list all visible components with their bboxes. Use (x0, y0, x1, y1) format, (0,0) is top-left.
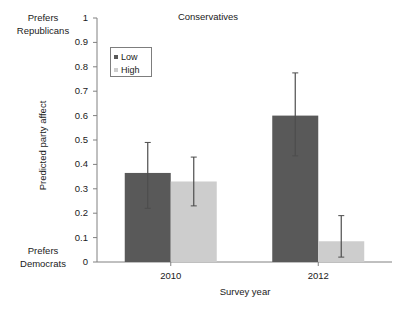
y-tick-label: 0.7 (62, 85, 88, 96)
x-tick-label: 2010 (131, 270, 211, 281)
legend-item-high: High (114, 63, 140, 76)
y-tick-label: 0.5 (62, 134, 88, 145)
legend-label-high: High (121, 65, 140, 75)
legend-item-low: Low (114, 50, 138, 63)
y-tick-label: 0.1 (62, 232, 88, 243)
chart-figure: Conservatives Prefers Republicans Prefer… (0, 0, 416, 311)
y-tick-label: 0.2 (62, 207, 88, 218)
chart-legend: Low High (110, 47, 152, 77)
y-tick-label: 1 (62, 12, 88, 23)
x-tick-label: 2012 (278, 270, 358, 281)
legend-swatch-low (114, 55, 118, 59)
y-tick-label: 0.8 (62, 61, 88, 72)
legend-label-low: Low (121, 52, 138, 62)
y-tick-label: 0.4 (62, 158, 88, 169)
legend-swatch-high (114, 68, 118, 72)
bars (125, 116, 365, 262)
y-tick-label: 0.6 (62, 110, 88, 121)
y-tick-label: 0 (62, 256, 88, 267)
y-tick-label: 0.3 (62, 183, 88, 194)
y-tick-label: 0.9 (62, 36, 88, 47)
